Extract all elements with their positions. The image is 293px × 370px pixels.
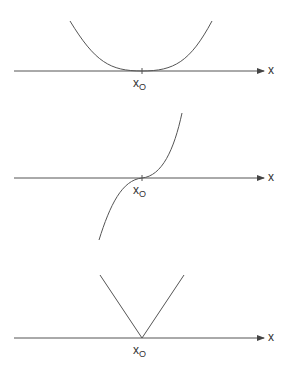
panel-corner: [14, 275, 264, 338]
cubic-curve: [99, 113, 182, 240]
abs-curve: [100, 275, 184, 338]
panel-inflection: [14, 113, 264, 240]
axis-label-x: x: [268, 170, 274, 184]
diagram-canvas: [0, 0, 293, 370]
panel-flat-minimum: [14, 21, 264, 74]
axis-label-x: x: [268, 330, 274, 344]
axis-label-x: x: [268, 63, 274, 77]
quartic-curve: [70, 21, 212, 71]
point-label-x0: xO: [133, 183, 146, 197]
point-label-x0: xO: [133, 343, 146, 357]
point-label-x0: xO: [133, 76, 146, 90]
